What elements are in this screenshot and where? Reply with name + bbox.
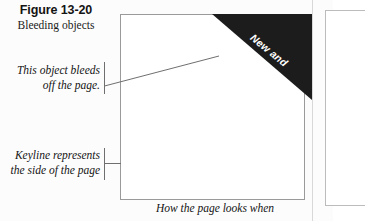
figure-caption: How the page looks when	[120, 202, 310, 214]
callout-bleeding-object-line-2: off the page.	[0, 78, 100, 93]
callout-bleeding-object-line-1: This object bleeds	[0, 63, 100, 78]
gutter-rule	[312, 0, 313, 221]
figure-number: Figure 13-20	[0, 3, 112, 17]
figure-subtitle: Bleeding objects	[0, 19, 112, 31]
callout-keyline-line-2: the side of the page	[0, 163, 100, 178]
callout-keyline: Keyline represents the side of the page	[0, 148, 100, 178]
callout-keyline-line-1: Keyline represents	[0, 148, 100, 163]
page-keyline-frame	[120, 14, 305, 200]
adjacent-figure-frame	[325, 10, 365, 206]
callout-bleeding-object: This object bleeds off the page.	[0, 63, 100, 93]
